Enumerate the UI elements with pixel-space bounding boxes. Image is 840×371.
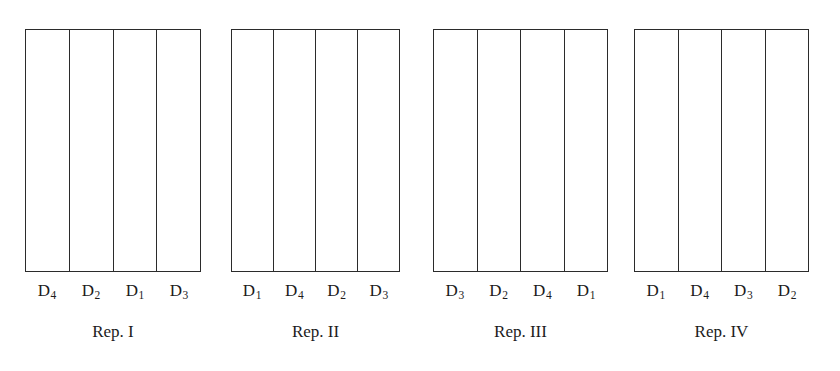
- plot-row-4: [634, 29, 809, 272]
- plot-label-base: D: [647, 281, 659, 300]
- plot-label: D1: [231, 278, 273, 304]
- plot-label: D2: [69, 278, 113, 304]
- rep-block-2: D1 D4 D2 D3 Rep. II: [231, 0, 400, 371]
- plot-label-row-1: D4 D2 D1 D3: [25, 278, 201, 304]
- plot-label: D3: [722, 278, 766, 304]
- plot-label: D4: [273, 278, 315, 304]
- plot-label-base: D: [370, 281, 382, 300]
- field-layout-figure: D4 D2 D1 D3 Rep. I D1 D4 D2 D3 Rep. II: [0, 0, 840, 371]
- plot-label: D3: [358, 278, 400, 304]
- plot-label: D1: [634, 278, 678, 304]
- plot-label-subscript: 2: [94, 289, 100, 301]
- rep-caption: Rep. III: [433, 320, 608, 344]
- plot-label-subscript: 4: [545, 289, 551, 301]
- plot-label-row-2: D1 D4 D2 D3: [231, 278, 400, 304]
- plot-label-base: D: [327, 281, 339, 300]
- plot-cell: [478, 30, 522, 271]
- plot-label-base: D: [126, 281, 138, 300]
- plot-label-base: D: [690, 281, 702, 300]
- plot-label-base: D: [489, 281, 501, 300]
- plot-label: D3: [433, 278, 477, 304]
- plot-label-base: D: [446, 281, 458, 300]
- plot-label: D1: [113, 278, 157, 304]
- plot-label-subscript: 3: [746, 289, 752, 301]
- rep-caption: Rep. II: [231, 320, 400, 344]
- plot-cell: [766, 30, 809, 271]
- rep-caption: Rep. IV: [634, 320, 809, 344]
- plot-label: D2: [316, 278, 358, 304]
- plot-label-base: D: [170, 281, 182, 300]
- plot-cell: [316, 30, 358, 271]
- plot-label-subscript: 4: [50, 289, 56, 301]
- plot-cell: [70, 30, 114, 271]
- plot-cell: [679, 30, 723, 271]
- plot-row-1: [25, 29, 201, 272]
- plot-cell: [26, 30, 70, 271]
- rep-block-1: D4 D2 D1 D3 Rep. I: [25, 0, 201, 371]
- plot-label-row-4: D1 D4 D3 D2: [634, 278, 809, 304]
- plot-label-subscript: 2: [340, 289, 346, 301]
- plot-label-base: D: [734, 281, 746, 300]
- plot-label-subscript: 1: [589, 289, 595, 301]
- plot-row-3: [433, 29, 608, 272]
- plot-cell: [114, 30, 158, 271]
- plot-label: D4: [521, 278, 565, 304]
- plot-label-base: D: [82, 281, 94, 300]
- plot-label-base: D: [285, 281, 297, 300]
- plot-label-base: D: [577, 281, 589, 300]
- plot-label: D4: [678, 278, 722, 304]
- plot-label: D2: [765, 278, 809, 304]
- plot-label-subscript: 2: [790, 289, 796, 301]
- plot-label: D3: [157, 278, 201, 304]
- plot-label-subscript: 3: [458, 289, 464, 301]
- plot-cell: [274, 30, 316, 271]
- plot-cell: [358, 30, 399, 271]
- plot-cell: [157, 30, 200, 271]
- plot-row-2: [231, 29, 400, 272]
- plot-cell: [565, 30, 608, 271]
- rep-block-3: D3 D2 D4 D1 Rep. III: [433, 0, 608, 371]
- plot-label-base: D: [243, 281, 255, 300]
- plot-label-subscript: 3: [182, 289, 188, 301]
- rep-caption: Rep. I: [25, 320, 201, 344]
- plot-cell: [232, 30, 274, 271]
- plot-cell: [434, 30, 478, 271]
- plot-label-subscript: 1: [255, 289, 261, 301]
- plot-label-subscript: 2: [502, 289, 508, 301]
- plot-label-subscript: 1: [659, 289, 665, 301]
- plot-label-subscript: 1: [138, 289, 144, 301]
- plot-label: D4: [25, 278, 69, 304]
- plot-cell: [521, 30, 565, 271]
- plot-label: D1: [564, 278, 608, 304]
- rep-block-4: D1 D4 D3 D2 Rep. IV: [634, 0, 809, 371]
- plot-label-row-3: D3 D2 D4 D1: [433, 278, 608, 304]
- plot-label: D2: [477, 278, 521, 304]
- plot-cell: [635, 30, 679, 271]
- plot-label-base: D: [533, 281, 545, 300]
- plot-cell: [722, 30, 766, 271]
- plot-label-subscript: 4: [297, 289, 303, 301]
- plot-label-base: D: [778, 281, 790, 300]
- plot-label-base: D: [38, 281, 50, 300]
- plot-label-subscript: 4: [703, 289, 709, 301]
- plot-label-subscript: 3: [382, 289, 388, 301]
